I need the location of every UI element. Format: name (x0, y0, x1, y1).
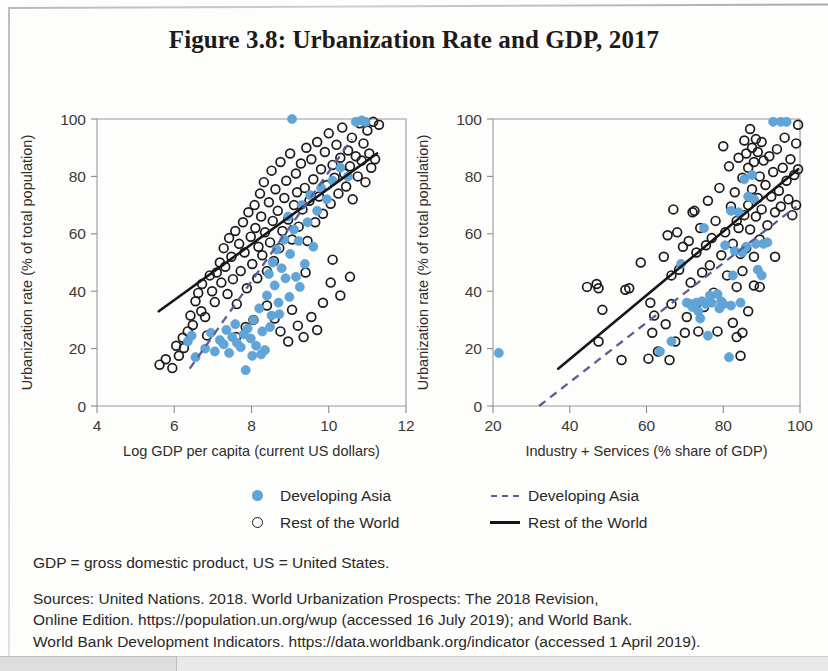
data-point (255, 304, 264, 313)
y-tick-label: 0 (77, 398, 86, 415)
data-point (750, 281, 759, 290)
data-point (728, 271, 737, 280)
data-point (210, 347, 219, 356)
data-point (761, 181, 770, 190)
data-point (268, 216, 277, 225)
data-point (730, 188, 739, 197)
x-tick-label: 100 (787, 417, 813, 434)
data-point (655, 347, 664, 356)
legend-item-line-rest-of-world: Rest of the World (482, 509, 647, 536)
data-point (792, 201, 801, 210)
data-point (696, 314, 705, 323)
data-point (262, 291, 271, 300)
x-tick-label: 12 (397, 417, 414, 434)
solid-line-icon (482, 521, 528, 524)
data-point (295, 282, 304, 291)
data-point (287, 114, 296, 123)
figure-page: Figure 3.8: Urbanization Rate and GDP, 2… (0, 0, 828, 671)
data-point (294, 236, 303, 245)
data-point (317, 165, 326, 174)
y-axis-title: Urbanization rate (% of total population… (19, 135, 35, 391)
data-point (275, 310, 284, 319)
data-point (259, 178, 268, 187)
data-point (326, 278, 335, 287)
y-tick-label: 100 (456, 111, 482, 128)
data-point (336, 163, 345, 172)
data-point (669, 205, 678, 214)
data-point (680, 328, 689, 337)
data-point (256, 189, 265, 198)
x-tick-label: 8 (247, 417, 256, 434)
data-point (282, 176, 291, 185)
data-point (661, 320, 670, 329)
data-point (253, 274, 262, 283)
figure-notes: GDP = gross domestic product, US = Unite… (33, 552, 808, 652)
data-point (328, 255, 337, 264)
data-point (303, 218, 312, 227)
y-tick-label: 60 (69, 225, 87, 242)
data-point (740, 136, 749, 145)
data-point (236, 343, 245, 352)
data-point (773, 145, 782, 154)
data-point (721, 241, 730, 250)
legend-label-line-rest-of-world: Rest of the World (528, 514, 647, 532)
data-point (273, 206, 282, 215)
data-point (241, 366, 250, 375)
data-point (778, 163, 787, 172)
data-point (769, 168, 778, 177)
data-point (276, 327, 285, 336)
dashed-line-icon (482, 495, 528, 497)
data-point (363, 126, 372, 135)
data-point (794, 120, 803, 129)
data-point (219, 244, 228, 253)
data-point (286, 149, 295, 158)
data-point (302, 143, 311, 152)
data-point (236, 267, 245, 276)
data-point (271, 185, 280, 194)
chart-left-log-gdp: 0204060801004681012Log GDP per capita (c… (18, 110, 414, 472)
data-point (268, 258, 277, 267)
data-point (223, 290, 232, 299)
data-point (231, 320, 240, 329)
data-point (715, 183, 724, 192)
data-point (278, 227, 287, 236)
data-point (293, 321, 302, 330)
data-point (257, 212, 266, 221)
data-point (324, 129, 333, 138)
x-tick-label: 10 (320, 417, 338, 434)
data-point (191, 297, 200, 306)
data-point (284, 337, 293, 346)
data-point (724, 353, 733, 362)
legend-item-marker-developing-asia: Developing Asia (234, 482, 399, 509)
data-point (161, 355, 170, 364)
data-point (713, 327, 722, 336)
data-point (792, 139, 801, 148)
data-point (266, 238, 275, 247)
data-point (309, 242, 318, 251)
chart-right-industry-services: 02040608010020406080100Industry + Servic… (414, 110, 814, 472)
data-point (719, 142, 728, 151)
data-point (320, 148, 329, 157)
data-point (267, 166, 276, 175)
data-point (583, 283, 592, 292)
data-point (299, 333, 308, 342)
data-point (286, 249, 295, 258)
data-point (186, 311, 195, 320)
x-axis-title: Log GDP per capita (current US dollars) (123, 443, 380, 459)
y-tick-label: 60 (465, 225, 483, 242)
data-point (239, 218, 248, 227)
data-point (738, 267, 747, 276)
data-point (725, 162, 734, 171)
data-point (598, 305, 607, 314)
data-point (313, 138, 322, 147)
y-tick-label: 20 (465, 340, 483, 357)
y-tick-label: 80 (465, 168, 483, 185)
data-point (313, 326, 322, 335)
data-point (264, 269, 273, 278)
data-point (736, 298, 745, 307)
data-point (784, 195, 793, 204)
data-point (188, 321, 197, 330)
data-point (715, 304, 724, 313)
data-point (348, 195, 357, 204)
data-point (338, 123, 347, 132)
